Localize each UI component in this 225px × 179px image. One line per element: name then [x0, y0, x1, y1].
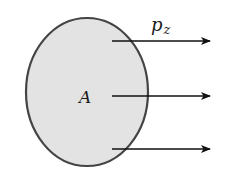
flux-diagram: A pz [0, 0, 225, 179]
area-label: A [77, 87, 91, 107]
momentum-label: pz [151, 14, 171, 37]
momentum-symbol: p [151, 14, 163, 35]
momentum-subscript: z [163, 22, 171, 37]
